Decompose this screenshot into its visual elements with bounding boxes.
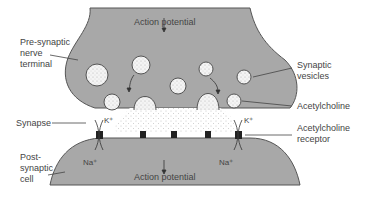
acetylcholine-cloud <box>115 108 234 133</box>
label-action-potential-bottom: Action potential <box>134 172 196 182</box>
label-postsynaptic-2: synaptic <box>20 163 54 173</box>
label-k-left: K⁺ <box>104 116 113 125</box>
label-acetylcholine: Acetylcholine <box>297 101 350 111</box>
label-na-right: Na⁺ <box>219 158 233 167</box>
label-synaptic-vesicles-1: Synaptic <box>297 60 332 70</box>
label-synaptic-vesicles-2: vesicles <box>297 71 330 81</box>
label-presynaptic-2: nerve <box>20 48 43 58</box>
synapse-diagram: Pre-synaptic nerve terminal Action poten… <box>0 0 367 198</box>
label-ach-receptor-2: receptor <box>297 134 330 144</box>
label-action-potential-top: Action potential <box>134 17 196 27</box>
label-presynaptic-1: Pre-synaptic <box>20 37 71 47</box>
label-presynaptic-3: terminal <box>20 59 52 69</box>
label-postsynaptic-1: Post- <box>20 152 41 162</box>
label-k-right: K⁺ <box>244 116 253 125</box>
label-na-left: Na⁺ <box>83 158 97 167</box>
label-synapse: Synapse <box>16 118 51 128</box>
label-ach-receptor-1: Acetylcholine <box>297 123 350 133</box>
label-postsynaptic-3: cell <box>20 174 34 184</box>
